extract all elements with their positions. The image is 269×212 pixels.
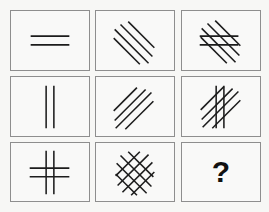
cell-r3c1-hash-grid: [10, 142, 90, 202]
two-horizontal-lines-icon: [11, 11, 89, 70]
down-right-diagonals-icon: [96, 11, 174, 70]
cell-r3c3-answer[interactable]: ?: [181, 142, 261, 202]
diagonals-with-verticals-icon: [182, 77, 260, 136]
cell-r2c3-diagonals-with-verticals: [181, 76, 261, 137]
cell-r1c2-down-right-diagonals: [95, 10, 175, 71]
cell-r2c1-two-vertical-lines: [10, 76, 90, 137]
diagonals-with-horizontals-icon: [182, 11, 260, 70]
cell-r2c2-up-right-diagonals: [95, 76, 175, 137]
up-right-diagonals-icon: [96, 77, 174, 136]
cell-r1c3-diagonals-with-horizontals: [181, 10, 261, 71]
hash-grid-icon: [11, 143, 89, 201]
cell-r1c1-two-horizontal-lines: [10, 10, 90, 71]
cell-r3c2-crosshatch: [95, 142, 175, 202]
two-vertical-lines-icon: [11, 77, 89, 136]
question-mark: ?: [182, 143, 260, 201]
crosshatch-icon: [96, 143, 174, 201]
